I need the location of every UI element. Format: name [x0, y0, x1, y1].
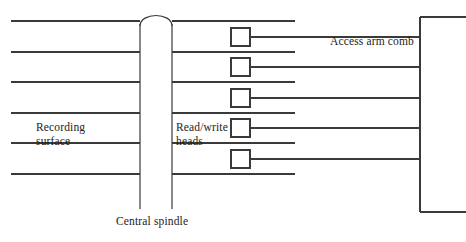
read-write-head-boxes: [231, 28, 250, 168]
recording-surfaces-left: [11, 21, 140, 174]
read-write-head-box-2: [231, 58, 250, 76]
read-write-head-box-4: [231, 119, 250, 137]
spindle-dome-icon: [140, 16, 172, 27]
central-spindle-shape: [140, 16, 172, 210]
read-write-head-box-3: [231, 89, 250, 107]
access-arms: [250, 37, 420, 159]
disk-drive-diagram: Recording surface Read/write heads Acces…: [0, 0, 466, 242]
label-read-write-heads: Read/write heads: [176, 121, 228, 148]
access-arm-comb-bracket: [420, 17, 466, 212]
label-recording-surface: Recording surface: [36, 121, 85, 148]
label-central-spindle: Central spindle: [116, 215, 188, 229]
label-access-arm-comb: Access arm comb: [330, 35, 414, 49]
read-write-head-box-5: [231, 150, 250, 168]
read-write-head-box-1: [231, 28, 250, 46]
